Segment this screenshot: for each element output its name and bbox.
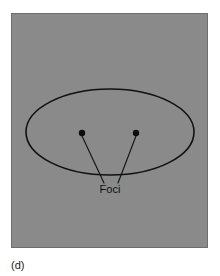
left-focus-point: [79, 130, 85, 136]
ellipse-foci-diagram: Foci (d): [0, 0, 220, 276]
figure-container: Foci (d): [0, 0, 220, 276]
ellipse-panel-background: [12, 14, 208, 248]
foci-label: Foci: [100, 183, 121, 195]
right-focus-point: [133, 130, 139, 136]
panel-caption: (d): [11, 259, 24, 271]
